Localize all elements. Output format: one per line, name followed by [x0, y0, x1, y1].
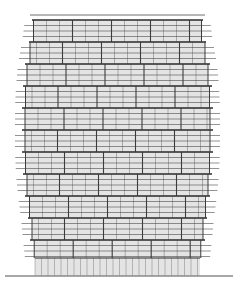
tower-elevation-drawing [0, 0, 235, 297]
glazing-band [34, 240, 201, 258]
podium-base [35, 258, 200, 276]
podium-glazing [35, 258, 200, 276]
facade-glazing [25, 20, 210, 258]
